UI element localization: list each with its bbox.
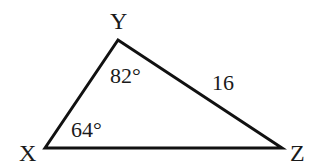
side-label-yz: 16 — [212, 70, 234, 95]
angle-label-y: 82° — [110, 63, 141, 88]
triangle-diagram: Y X Z 82° 64° 16 — [0, 0, 316, 166]
vertex-label-y: Y — [110, 8, 127, 34]
angle-label-x: 64° — [71, 117, 102, 142]
vertex-label-z: Z — [290, 140, 305, 166]
vertex-label-x: X — [19, 140, 36, 166]
